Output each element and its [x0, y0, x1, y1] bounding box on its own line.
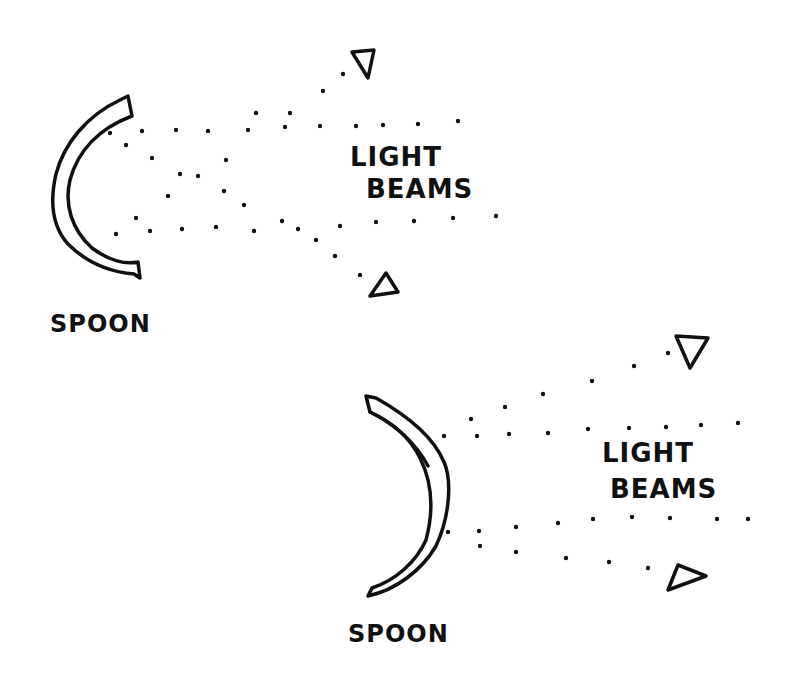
bottom-spoon-label: SPOON [348, 622, 449, 646]
diagram-artwork [0, 0, 786, 696]
top-light-label-line1: LIGHT [350, 144, 442, 170]
top-beams-label-line2: BEAMS [366, 176, 473, 202]
top-lower-triangle-icon [370, 273, 398, 296]
bottom-upper-triangle-icon [676, 336, 708, 368]
top-spoon-shape [53, 96, 140, 278]
diagram-canvas: LIGHT BEAMS SPOON LIGHT BEAMS SPOON [0, 0, 786, 696]
bottom-light-beam-dots [442, 351, 750, 570]
bottom-light-label-line1: LIGHT [602, 440, 694, 466]
top-spoon-label: SPOON [50, 312, 151, 336]
bottom-beams-label-line2: BEAMS [610, 476, 717, 502]
bottom-spoon-shape [366, 396, 449, 596]
top-upper-triangle-icon [352, 50, 374, 78]
bottom-lower-triangle-icon [668, 565, 706, 590]
